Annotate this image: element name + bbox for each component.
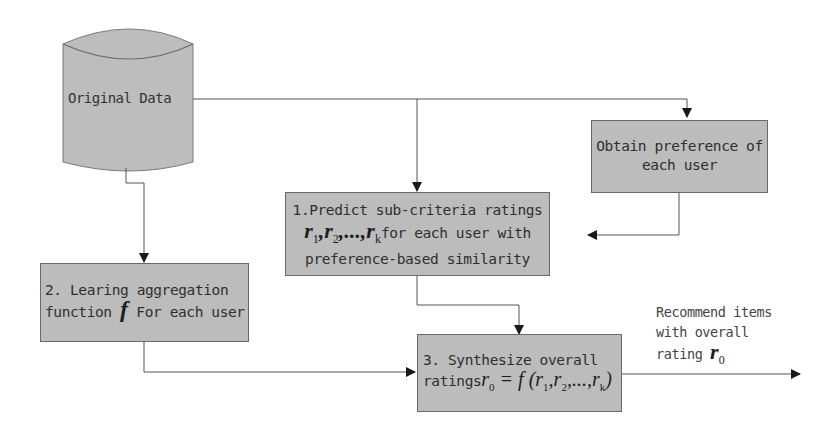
predict-line2: for each user with — [381, 225, 531, 241]
synthesize-ratings-box: 3. Synthesize overall ratingsr0 = f (r1,… — [417, 334, 622, 412]
predict-ratings-box: 1.Predict sub-criteria ratings r1,r2,...… — [285, 192, 550, 276]
edge-learn-to-synthesize — [144, 339, 415, 372]
edge-data-to-preference — [193, 99, 687, 117]
predict-math-ratings: r1,r2,...,rk — [304, 218, 381, 243]
recommend-line1: Recommend items — [656, 302, 772, 322]
learn-math-f: f — [120, 296, 128, 322]
learn-line1: 2. Learing aggregation — [45, 281, 248, 300]
learn-line2-prefix: function — [45, 304, 112, 320]
learn-aggregation-box: 2. Learing aggregation function f For ea… — [40, 263, 249, 342]
original-data-label: Original Data — [68, 90, 198, 106]
recommend-math-r0: r0 — [710, 339, 725, 364]
edge-data-to-learn — [126, 168, 144, 262]
edge-predict-to-synthesize — [417, 275, 519, 334]
recommend-line3-prefix: rating — [656, 346, 702, 362]
obtain-preference-line1: Obtain preference of — [592, 137, 767, 156]
recommend-output-label: Recommend items with overall rating r0 — [656, 302, 772, 370]
synthesize-line2-prefix: ratings — [423, 373, 481, 389]
edge-preference-to-predict — [588, 193, 679, 235]
flowchart: Original Data Obtain preference of each … — [0, 0, 838, 435]
obtain-preference-line2: each user — [592, 156, 767, 175]
synthesize-formula: r0 = f (r1,r2,...,rk) — [481, 368, 612, 390]
obtain-preference-box: Obtain preference of each user — [591, 120, 768, 193]
predict-line3: preference-based similarity — [286, 250, 549, 269]
learn-line2-suffix: For each user — [136, 304, 244, 320]
